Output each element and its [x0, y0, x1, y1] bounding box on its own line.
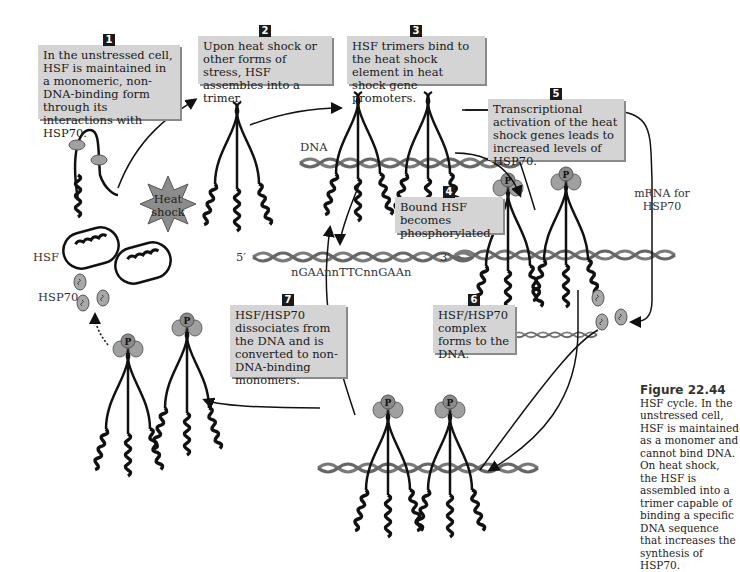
five-prime-label: 5′	[236, 250, 246, 264]
step-1-box: 1 In the unstressed cell, HSF is maintai…	[38, 45, 180, 119]
step-2-badge: 2	[259, 25, 271, 37]
step-7-badge: 7	[282, 294, 294, 306]
step-3-box: 3 HSF trimers bind to the heat shock ele…	[347, 36, 485, 84]
dna-helix-top	[300, 159, 520, 167]
step-1-badge: 1	[103, 34, 115, 46]
mrna-label: mRNA for HSP70	[632, 187, 692, 213]
heat-shock-label: Heat shock	[143, 193, 193, 219]
step-4-text: Bound HSF becomes phosphorylated.	[400, 200, 494, 240]
figure-title: Figure 22.44	[640, 384, 740, 397]
hsf-label: HSF	[33, 250, 59, 264]
dna-label: DNA	[300, 140, 328, 154]
step-6-badge: 6	[468, 294, 480, 306]
step-6-box: 6 HSF/HSP70 complex forms to the DNA.	[433, 305, 515, 353]
step-7-text: HSF/HSP70 dissociates from the DNA and i…	[235, 308, 338, 387]
step-2-box: 2 Upon heat shock or other forms of stre…	[198, 36, 332, 84]
three-prime-label: 3′	[440, 250, 450, 264]
dna-sequence-label: nGAAnnTTCnnGAAn	[291, 265, 411, 279]
hsf-monomer-with-hsp70	[69, 130, 118, 217]
step-5-badge: 5	[550, 88, 562, 100]
step-5-text: Transcriptional activation of the heat s…	[493, 102, 617, 168]
dna-helix-bottom	[318, 464, 538, 472]
figure-caption: Figure 22.44 HSF cycle. In the unstresse…	[640, 384, 740, 572]
step-3-badge: 3	[410, 25, 422, 37]
step-5-box: 5 Transcriptional activation of the heat…	[488, 99, 624, 160]
step-4-badge: 4	[443, 186, 455, 198]
hsp70-label: HSP70	[38, 290, 78, 304]
hsp70-protein	[74, 274, 86, 290]
step-4-box: 4 Bound HSF becomes phosphorylated.	[395, 197, 503, 233]
figure-caption-text: HSF cycle. In the unstressed cell, HSF i…	[640, 397, 740, 572]
step-7-box: 7 HSF/HSP70 dissociates from the DNA and…	[230, 305, 346, 377]
